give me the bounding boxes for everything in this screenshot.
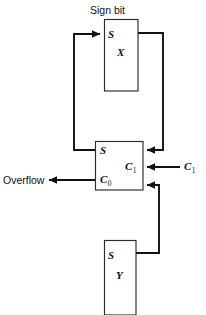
serial-adder-diagram: Sign bit S X S C0 C1 S Y Overflow C1	[0, 0, 206, 315]
full-adder-carry-in-port-label: C1	[125, 161, 136, 172]
carry-out-letter: C	[100, 173, 107, 185]
register-x-body-label: X	[117, 47, 124, 58]
register-y-port-label: S	[108, 250, 114, 261]
carry-out-subscript: 0	[108, 179, 112, 188]
carry-in-subscript: 1	[133, 166, 137, 175]
wire-sum-feedback-to-x	[74, 34, 100, 150]
external-carry-letter: C	[184, 160, 191, 172]
diagram-canvas	[0, 0, 206, 315]
sign-bit-caption: Sign bit	[90, 5, 125, 16]
overflow-label: Overflow	[3, 175, 44, 186]
carry-in-letter: C	[125, 160, 132, 172]
wire-x-to-adder	[138, 33, 163, 150]
external-carry-in-label: C1	[184, 161, 195, 172]
full-adder-sum-port-label: S	[100, 145, 106, 156]
wire-y-to-adder	[136, 185, 159, 253]
external-carry-subscript: 1	[192, 166, 196, 175]
full-adder-carry-out-port-label: C0	[100, 174, 111, 185]
register-y-body-label: Y	[116, 270, 123, 281]
register-x-port-label: S	[108, 29, 114, 40]
